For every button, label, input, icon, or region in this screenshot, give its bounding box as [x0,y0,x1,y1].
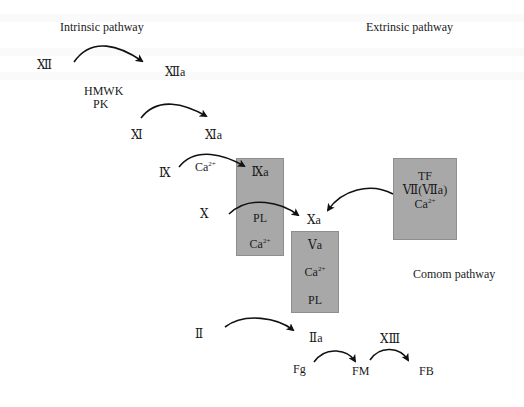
arrows-layer [0,0,524,407]
arrow-fg-to-fm [314,351,355,362]
arrow-x-to-xa [229,202,298,215]
arrow-xi-to-xia [141,104,206,118]
arrow-xii-to-xiia [74,46,142,62]
arrow-ix-to-ixa [179,154,244,167]
arrow-ii-to-iia [225,318,293,330]
arrow-fm-to-fb [370,349,408,360]
arrow-tf-to-xa [328,188,393,210]
